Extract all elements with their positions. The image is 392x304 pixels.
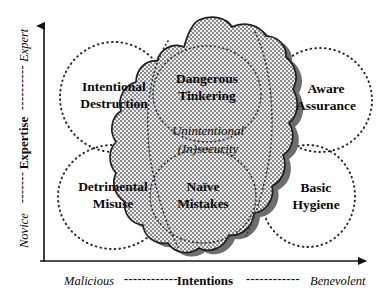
diagram-canvas: Intentional Destruction Aware Assurance … — [0, 0, 392, 304]
label-intentional-destruction-line1: Intentional — [82, 79, 146, 94]
label-detrimental-misuse-line2: Misuse — [93, 196, 134, 211]
x-axis-high-label: Benevolent — [310, 274, 366, 288]
x-axis-dash-high: ------------ — [246, 272, 300, 286]
label-basic-hygiene-line2: Hygiene — [292, 197, 339, 212]
y-axis-dash-low: ------- — [15, 172, 29, 203]
label-unintentional-insecurity-line1: Unintentional — [172, 123, 245, 138]
label-intentional-destruction-line2: Destruction — [80, 96, 148, 111]
x-axis-label-group: Malicious ------------ Intentions ------… — [63, 272, 366, 288]
label-naive-mistakes-line1: Naïve — [187, 179, 220, 194]
label-naive-mistakes-line2: Mistakes — [177, 196, 229, 211]
label-dangerous-tinkering-line1: Dangerous — [176, 71, 238, 86]
label-unintentional-insecurity-line2: (In)security — [178, 141, 239, 156]
label-detrimental-misuse-line1: Detrimental — [78, 179, 148, 194]
y-axis-high-label: Expert — [17, 28, 31, 63]
label-dangerous-tinkering-line2: Tinkering — [178, 88, 236, 103]
x-axis-dash-low: ------------ — [124, 272, 178, 286]
x-axis-name: Intentions — [177, 273, 233, 288]
y-axis-low-label: Novice — [17, 213, 31, 249]
y-axis-name: Expertise — [16, 116, 31, 169]
y-axis-label-group: Novice ------- Expertise ---------- Expe… — [15, 28, 31, 249]
expertise-intentions-diagram: Intentional Destruction Aware Assurance … — [0, 0, 392, 304]
y-axis-dash-high: ---------- — [15, 65, 29, 110]
label-aware-assurance-line2: Assurance — [296, 98, 356, 113]
label-aware-assurance-line1: Aware — [308, 81, 345, 96]
x-axis-low-label: Malicious — [63, 274, 114, 288]
label-basic-hygiene-line1: Basic — [301, 180, 332, 195]
